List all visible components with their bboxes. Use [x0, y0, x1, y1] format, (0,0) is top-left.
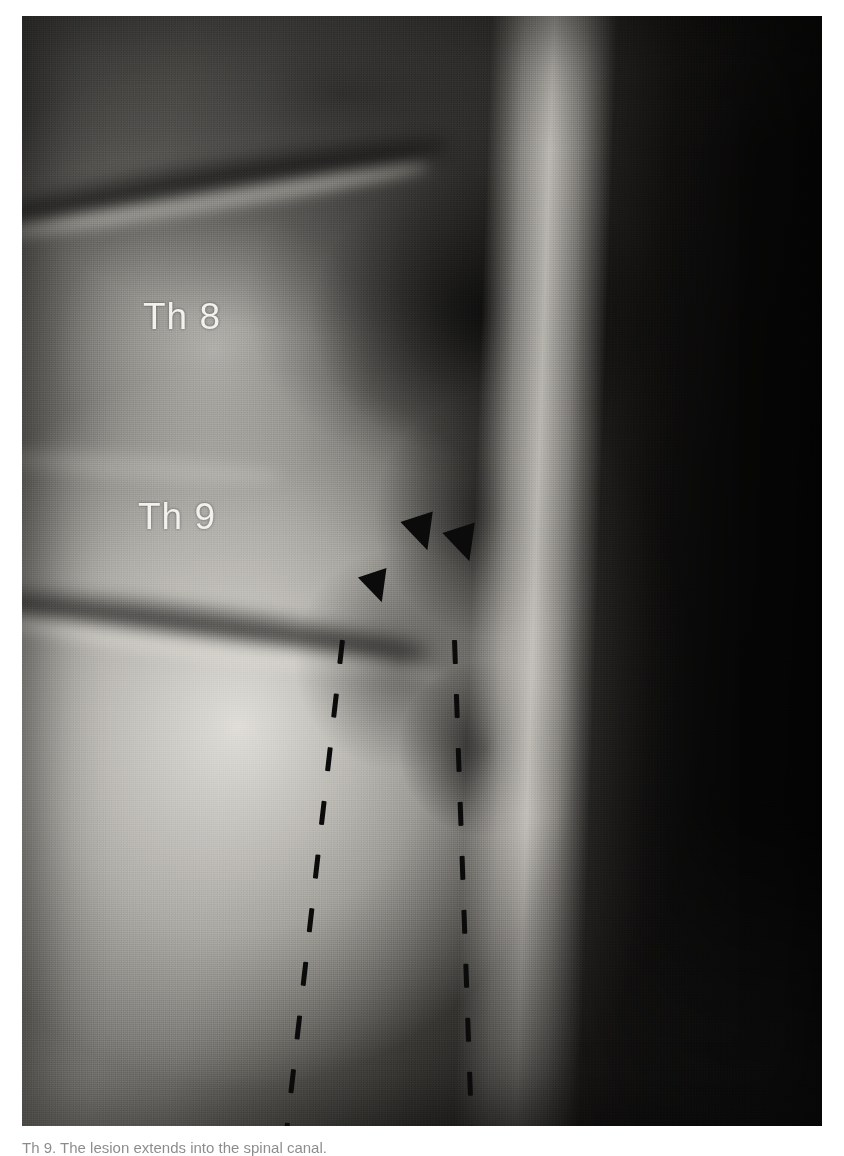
dashed-line-right [452, 640, 475, 1126]
radiograph-page: Th 8 Th 9 Th 9. The lesion extends into … [0, 0, 844, 1156]
radiograph-plate: Th 8 Th 9 [22, 16, 822, 1126]
arrowhead-3-icon [358, 568, 396, 607]
arrowhead-2-icon [442, 523, 485, 567]
figure-caption-text: Th 9. The lesion extends into the spinal… [22, 1142, 834, 1155]
annotation-marker-layer [22, 16, 822, 1126]
arrowhead-1-icon [400, 512, 443, 556]
dashed-line-left [282, 640, 345, 1126]
figure-caption: Th 9. The lesion extends into the spinal… [22, 1142, 834, 1156]
